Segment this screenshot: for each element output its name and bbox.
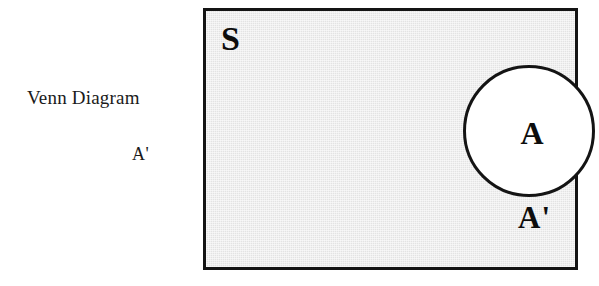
figure-canvas: Venn Diagram A' A S A' [0,0,599,286]
figure-caption: Venn Diagram [27,87,140,109]
universal-set-label: S [221,22,240,56]
set-a-circle: A [463,65,595,197]
set-a-label: A [466,68,598,200]
figure-caption-complement-label: A' [132,144,149,164]
complement-region-label: A' [518,202,551,233]
